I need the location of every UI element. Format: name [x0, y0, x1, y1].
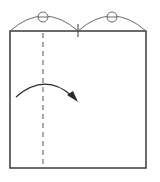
- paper-square: [10, 31, 146, 168]
- fold-diagram: [0, 0, 160, 182]
